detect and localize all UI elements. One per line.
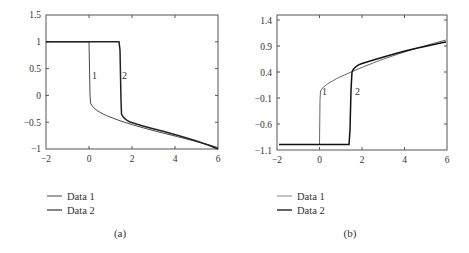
y-tick-label: −0.6 — [255, 120, 272, 130]
curve-label-2: 2 — [122, 70, 127, 81]
legend-b: Data 1 Data 2 — [277, 191, 325, 216]
legend-label-data-2: Data 2 — [297, 205, 325, 216]
figure: 1.5 1 0.5 0 −0.5 −1 −2 0 2 4 6 1 2 Data … — [0, 0, 469, 253]
x-tick-label: 6 — [216, 154, 221, 164]
chart-b: 1.4 0.9 0.4 −0.1 −0.6 −1.1 −2 0 2 4 6 1 … — [255, 15, 450, 240]
legend-a: Data 1 Data 2 — [47, 191, 95, 216]
y-tick-label: 0.9 — [260, 42, 272, 52]
y-tick-label: −1 — [31, 144, 41, 154]
x-tick-label: −2 — [272, 155, 282, 165]
curve-label-1: 1 — [92, 70, 97, 81]
y-tick-label: −0.5 — [24, 118, 41, 128]
y-tick-label: 1 — [36, 37, 41, 47]
y-tick-label: 0.5 — [29, 64, 41, 74]
x-tick-label: 4 — [173, 154, 178, 164]
x-tick-label: −2 — [41, 154, 51, 164]
plot-area-a — [46, 15, 218, 149]
x-axis-a — [89, 15, 175, 149]
x-tick-label: 2 — [130, 154, 135, 164]
series-data-2-a — [46, 42, 218, 149]
plot-area-b — [277, 15, 447, 150]
x-tick-label: 4 — [402, 155, 407, 165]
y-axis-b — [277, 20, 447, 124]
curve-label-2: 2 — [355, 86, 360, 97]
series-data-1-a — [46, 42, 218, 148]
caption-b: (b) — [344, 227, 357, 240]
y-tick-label: 0.4 — [260, 68, 272, 78]
chart-a: 1.5 1 0.5 0 −0.5 −1 −2 0 2 4 6 1 2 Data … — [24, 10, 221, 240]
series-data-2-b — [279, 42, 446, 145]
y-tick-label: −0.1 — [255, 94, 272, 104]
legend-label-data-1: Data 1 — [297, 191, 325, 202]
x-tick-label: 2 — [360, 155, 365, 165]
y-tick-label: 1.5 — [29, 10, 41, 20]
series-data-1-b — [279, 40, 446, 145]
x-tick-label: 0 — [87, 154, 92, 164]
caption-a: (a) — [114, 227, 127, 240]
y-tick-label: 1.4 — [260, 16, 272, 26]
x-tick-label: 0 — [317, 155, 322, 165]
y-tick-label: 0 — [36, 91, 41, 101]
legend-label-data-2: Data 2 — [67, 205, 95, 216]
legend-label-data-1: Data 1 — [67, 191, 95, 202]
curve-label-1: 1 — [322, 86, 327, 97]
x-tick-label: 6 — [445, 155, 450, 165]
y-tick-label: −1.1 — [255, 146, 272, 156]
x-axis-b — [320, 15, 405, 150]
y-axis-a — [46, 42, 218, 122]
